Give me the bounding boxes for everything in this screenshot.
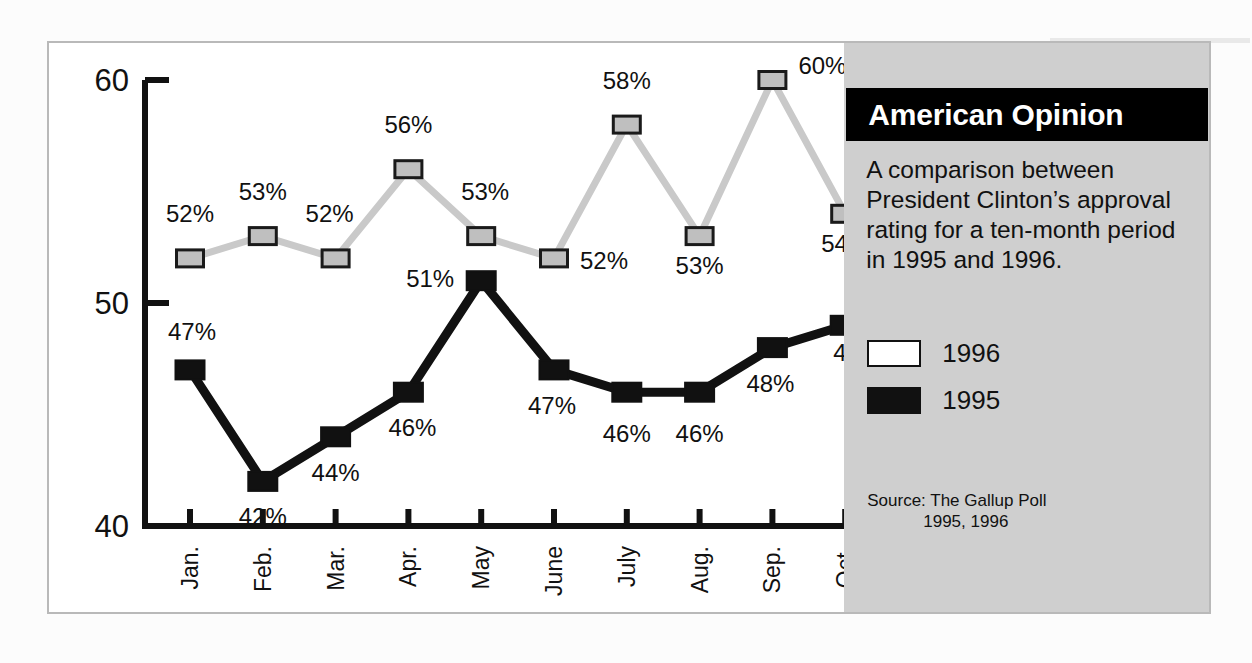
data-value-label: 52% xyxy=(306,200,354,227)
legend-item-1996: 1996 xyxy=(867,330,1187,377)
data-point-marker xyxy=(394,383,423,402)
data-point-marker xyxy=(758,338,787,357)
data-value-label: 46% xyxy=(603,420,651,447)
legend-label-1995: 1995 xyxy=(942,385,1000,416)
data-point-marker xyxy=(686,228,713,245)
data-value-label: 46% xyxy=(388,414,436,441)
y-tick-label: 60 xyxy=(95,63,129,98)
data-value-label: 52% xyxy=(580,247,628,274)
data-point-marker xyxy=(612,383,641,402)
x-tick-label: Sep. xyxy=(759,546,785,593)
x-tick-label: June xyxy=(541,546,567,596)
data-point-marker xyxy=(176,360,205,379)
x-tick-label: Aug. xyxy=(687,546,713,593)
data-point-marker xyxy=(613,116,640,133)
data-value-label: 56% xyxy=(384,111,432,138)
data-value-label: 51% xyxy=(406,265,454,292)
x-tick-label: Feb. xyxy=(250,546,276,592)
data-value-label: 48% xyxy=(746,370,794,397)
legend-label-1996: 1996 xyxy=(942,338,1000,369)
data-value-label: 54% xyxy=(821,230,847,257)
x-tick-label: July xyxy=(614,546,640,587)
data-value-labels: 52%53%52%56%53%52%58%53%60%54%47%42%44%4… xyxy=(166,52,847,530)
data-value-label: 53% xyxy=(461,178,509,205)
data-value-label: 46% xyxy=(676,420,724,447)
source-note: Source: The Gallup Poll 1995, 1996 xyxy=(867,490,1197,532)
info-panel: American Opinion A comparison between Pr… xyxy=(844,43,1209,612)
x-axis-month-labels: Jan.Feb.Mar.Apr.MayJuneJulyAug.Sep.Oct. xyxy=(177,546,847,596)
data-point-marker xyxy=(759,72,786,89)
data-point-marker xyxy=(177,250,204,267)
data-value-label: 58% xyxy=(603,67,651,94)
legend-swatch-1996-icon xyxy=(867,340,921,367)
scanned-page: 405060 Jan.Feb.Mar.Apr.MayJuneJulyAug.Se… xyxy=(0,0,1252,663)
panel-caption: A comparison between President Clinton’s… xyxy=(866,155,1196,275)
chart-panel: 405060 Jan.Feb.Mar.Apr.MayJuneJulyAug.Se… xyxy=(49,43,844,612)
legend-swatch-1995-icon xyxy=(867,387,921,414)
y-tick-label: 50 xyxy=(95,286,129,321)
data-value-label: 47% xyxy=(168,318,216,345)
data-point-marker xyxy=(468,228,495,245)
y-tick-label: 40 xyxy=(95,509,129,544)
y-axis-tick-labels: 405060 xyxy=(95,63,129,544)
data-point-marker xyxy=(322,250,349,267)
data-point-marker xyxy=(249,228,276,245)
data-point-marker xyxy=(321,427,350,446)
series-1996 xyxy=(177,72,848,267)
figure-container: 405060 Jan.Feb.Mar.Apr.MayJuneJulyAug.Se… xyxy=(47,41,1211,614)
chart-legend: 1996 1995 xyxy=(867,330,1187,424)
data-point-marker xyxy=(541,250,568,267)
data-value-label: 53% xyxy=(239,178,287,205)
data-point-marker xyxy=(248,472,277,491)
x-tick-label: Jan. xyxy=(177,546,203,589)
data-value-label: 52% xyxy=(166,200,214,227)
data-point-marker xyxy=(540,360,569,379)
x-tick-label: Mar. xyxy=(323,546,349,591)
data-point-marker xyxy=(467,271,496,290)
data-value-label: 42% xyxy=(239,503,287,530)
panel-title-bar: American Opinion xyxy=(846,88,1208,141)
data-point-marker xyxy=(395,161,422,178)
data-value-label: 47% xyxy=(528,392,576,419)
x-tick-label: Apr. xyxy=(395,546,421,587)
source-line-2: 1995, 1996 xyxy=(867,511,1197,532)
data-value-label: 60% xyxy=(798,52,846,79)
line-chart: 405060 Jan.Feb.Mar.Apr.MayJuneJulyAug.Se… xyxy=(49,43,847,616)
legend-item-1995: 1995 xyxy=(867,377,1187,424)
data-value-label: 44% xyxy=(312,459,360,486)
panel-title: American Opinion xyxy=(846,98,1123,132)
data-value-label: 53% xyxy=(676,252,724,279)
x-tick-label: May xyxy=(468,546,494,590)
data-point-marker xyxy=(685,383,714,402)
source-line-1: Source: The Gallup Poll xyxy=(867,491,1046,510)
